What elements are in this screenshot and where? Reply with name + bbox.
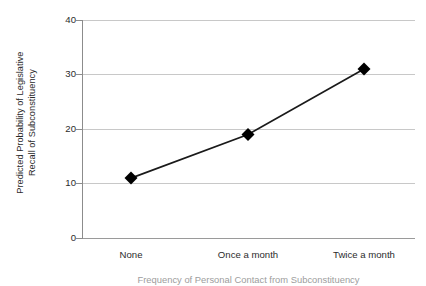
y-tick-label-10: 10: [52, 178, 76, 188]
y-tick-mark-0: [76, 238, 82, 239]
data-point-marker: [358, 63, 371, 76]
y-tick-label-20: 20: [52, 124, 76, 134]
y-tick-label-0: 0: [52, 233, 76, 243]
x-tick-label-twice-a-month: Twice a month: [333, 249, 395, 261]
y-axis-title-line-1: Predicted Probability of Legislative: [14, 52, 26, 194]
y-axis-title: Predicted Probability of Legislative Rec…: [0, 0, 52, 246]
gridline-0: [82, 238, 415, 239]
x-axis-title: Frequency of Personal Contact from Subco…: [82, 274, 415, 286]
data-point-marker: [242, 128, 255, 141]
data-series-layer: [82, 20, 415, 238]
x-tick-label-none: None: [120, 249, 143, 261]
y-tick-label-40: 40: [52, 15, 76, 25]
x-tick-label-once-a-month: Once a month: [218, 249, 278, 261]
y-axis-tick-labels: 40 30 20 10 0: [52, 0, 76, 284]
data-point-marker: [125, 172, 138, 185]
y-axis-title-line-2: Recall of Subconstituency: [26, 52, 38, 194]
series-line: [131, 69, 364, 178]
y-tick-label-30: 30: [52, 69, 76, 79]
x-axis-tick-labels: None Once a month Twice a month: [0, 249, 426, 263]
